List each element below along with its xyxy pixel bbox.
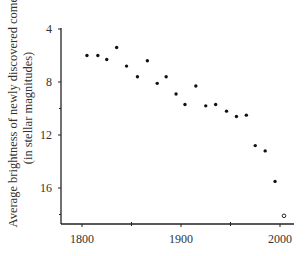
data-point	[225, 109, 228, 112]
data-point	[273, 180, 276, 183]
data-point	[174, 92, 177, 95]
data-point	[204, 104, 207, 107]
data-point	[146, 59, 149, 62]
x-tick-label: 2000	[268, 232, 292, 246]
y-tick-label: 16	[40, 181, 52, 195]
data-point	[263, 149, 266, 152]
data-point	[136, 75, 139, 78]
x-tick-label: 1900	[169, 232, 193, 246]
data-point	[115, 46, 118, 49]
data-point-open	[282, 214, 286, 218]
data-point	[164, 75, 167, 78]
scatter-chart: 481216180019002000	[0, 0, 306, 256]
data-point	[125, 64, 128, 67]
data-point	[156, 82, 159, 85]
data-point	[183, 103, 186, 106]
axes: 481216180019002000	[40, 22, 294, 246]
data-point	[254, 144, 257, 147]
data-point	[214, 103, 217, 106]
data-point	[96, 54, 99, 57]
y-tick-label: 12	[40, 128, 52, 142]
x-tick-label: 1800	[70, 232, 94, 246]
data-point	[235, 115, 238, 118]
y-tick-label: 8	[46, 75, 52, 89]
data-point	[245, 113, 248, 116]
y-tick-label: 4	[46, 22, 52, 36]
data-point	[105, 58, 108, 61]
data-point	[85, 54, 88, 57]
data-point	[194, 84, 197, 87]
data-points	[85, 46, 286, 218]
